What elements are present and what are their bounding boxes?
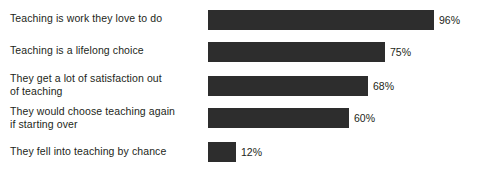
- bar-fill: [208, 10, 434, 30]
- bar-fill: [208, 42, 385, 62]
- bar-category-label: They would choose teaching again if star…: [10, 105, 202, 131]
- bar-value-label: 12%: [241, 142, 262, 162]
- bar-value-label: 96%: [439, 10, 460, 30]
- bar-fill: [208, 108, 349, 128]
- bar-value-label: 60%: [354, 108, 375, 128]
- bar-fill: [208, 142, 236, 162]
- bar-category-label: They fell into teaching by chance: [10, 145, 202, 158]
- bar-track: [208, 142, 236, 162]
- bar-fill: [208, 76, 368, 96]
- bar-value-label: 75%: [390, 42, 411, 62]
- bar-value-label: 68%: [373, 76, 394, 96]
- horizontal-bar-chart: Teaching is work they love to do 96% Tea…: [0, 0, 482, 173]
- bar-category-label: Teaching is work they love to do: [10, 12, 202, 25]
- bar-track: [208, 108, 349, 128]
- bar-category-label: Teaching is a lifelong choice: [10, 44, 202, 57]
- bar-track: [208, 76, 368, 96]
- bar-track: [208, 42, 385, 62]
- bar-track: [208, 10, 434, 30]
- bar-category-label: They get a lot of satisfaction out of te…: [10, 72, 202, 98]
